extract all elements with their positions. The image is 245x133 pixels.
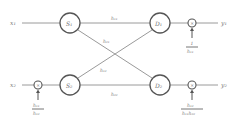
node-s2-label: S₂ <box>66 82 73 89</box>
gain-left-num: h₁₁ <box>33 103 40 108</box>
arrow-up-icon <box>36 90 40 94</box>
multiply-icon: × <box>36 83 40 88</box>
arrow-up-icon <box>190 28 194 32</box>
gain-top-right-num: 1 <box>191 41 194 46</box>
edge-label-top: h₁₁ <box>111 16 118 21</box>
edge-label-upper-diag: h₂₁ <box>103 39 110 44</box>
gain-left-den: h₁₂ <box>33 111 40 116</box>
output-y1-label: y₁ <box>220 19 227 27</box>
arrow-up-icon <box>190 90 194 94</box>
edge-label-bottom: h₂₂ <box>111 92 118 97</box>
multiply-icon: × <box>190 21 194 26</box>
gain-bottom-right-den: h₁₁h₂₂ <box>182 111 195 116</box>
interference-channel-diagram: S₁ D₁ S₂ D₂ × × × 1 h₁₁ h₁₁ h₁₂ h₁₂ h₁₁h… <box>0 0 245 133</box>
node-d1-label: D₁ <box>154 20 162 27</box>
multiply-icon: × <box>190 83 194 88</box>
output-y2-label: y₂ <box>220 81 227 89</box>
input-x1-label: x₁ <box>10 19 16 26</box>
edge-label-lower-diag: h₁₂ <box>100 68 107 73</box>
gain-bottom-right-num: h₁₂ <box>187 103 194 108</box>
node-d2-label: D₂ <box>154 82 163 89</box>
node-s1-label: S₁ <box>66 20 73 27</box>
gain-top-right-den: h₁₁ <box>187 49 194 54</box>
input-x2-label: x₂ <box>10 81 16 88</box>
